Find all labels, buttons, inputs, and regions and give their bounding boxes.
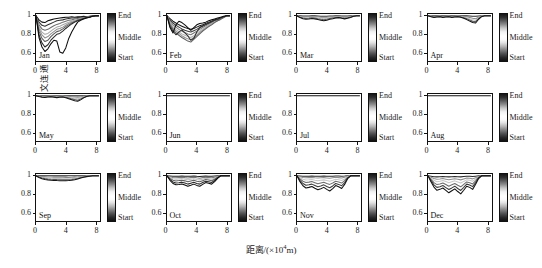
x-tick-mark (35, 222, 36, 225)
x-tick-mark (296, 62, 297, 65)
x-tick-mark (427, 142, 428, 145)
y-tick-mark (163, 133, 166, 134)
x-tick-label: 8 (217, 147, 237, 155)
x-tick-mark (488, 222, 489, 225)
colorbar-dec (499, 173, 508, 222)
x-tick-mark (296, 142, 297, 145)
y-tick-mark (163, 175, 166, 176)
colorbar-oct (238, 173, 247, 222)
x-tick-label: 4 (56, 147, 76, 155)
y-tick-mark (33, 95, 36, 96)
x-tick-mark (427, 222, 428, 225)
series-line (428, 16, 491, 23)
y-tick-mark (294, 194, 297, 195)
x-tick-mark (457, 222, 458, 225)
y-tick-label: 1 (7, 171, 31, 179)
y-tick-label: 0.6 (7, 209, 31, 217)
y-tick-label: 0.6 (138, 209, 162, 217)
colorbar-label-end: End (510, 92, 523, 100)
plot-area-jan: Jan (35, 13, 101, 62)
y-tick-label: 0.6 (268, 49, 292, 57)
y-tick-label: 0.6 (138, 49, 162, 57)
y-tick-mark (424, 194, 427, 195)
colorbar-label-end: End (379, 92, 392, 100)
y-tick-label: 0.8 (7, 190, 31, 198)
x-tick-label: 8 (478, 227, 498, 235)
y-tick-label: 0.8 (138, 30, 162, 38)
x-tick-label: 0 (417, 67, 437, 75)
x-tick-label: 8 (347, 67, 367, 75)
y-tick-mark (424, 133, 427, 134)
x-tick-label: 4 (447, 227, 467, 235)
plot-area-apr: Apr (427, 13, 493, 62)
y-tick-label: 0.8 (7, 30, 31, 38)
x-tick-mark (196, 222, 197, 225)
x-tick-label: 8 (347, 147, 367, 155)
month-label-sep: Sep (39, 212, 51, 220)
plot-area-jul: Jul (296, 93, 362, 142)
y-tick-label: 0.8 (7, 110, 31, 118)
x-tick-mark (96, 142, 97, 145)
y-tick-label: 0.8 (399, 30, 423, 38)
monthly-connectivity-figure: 横向水文连通 距离/(×104m) Jan10.80.6048EndMiddle… (0, 0, 542, 268)
y-tick-mark (33, 34, 36, 35)
y-tick-label: 1 (7, 91, 31, 99)
x-tick-label: 0 (25, 67, 45, 75)
y-tick-mark (424, 15, 427, 16)
x-tick-label: 4 (317, 147, 337, 155)
y-tick-label: 0.8 (268, 30, 292, 38)
colorbar-label-start: Start (379, 54, 394, 62)
month-label-aug: Aug (431, 132, 445, 140)
y-tick-mark (33, 194, 36, 195)
x-tick-mark (488, 142, 489, 145)
month-label-may: May (39, 132, 54, 140)
y-tick-label: 1 (399, 91, 423, 99)
y-tick-mark (163, 213, 166, 214)
y-tick-mark (33, 15, 36, 16)
colorbar-label-start: Start (379, 214, 394, 222)
colorbar-label-end: End (118, 12, 131, 20)
y-tick-label: 1 (138, 91, 162, 99)
x-tick-label: 8 (86, 67, 106, 75)
colorbar-label-start: Start (249, 214, 264, 222)
colorbar-label-end: End (118, 92, 131, 100)
x-tick-mark (296, 222, 297, 225)
x-tick-mark (66, 222, 67, 225)
y-tick-label: 1 (399, 171, 423, 179)
series-line (428, 176, 491, 191)
y-tick-label: 1 (268, 91, 292, 99)
y-tick-mark (294, 95, 297, 96)
x-tick-mark (227, 142, 228, 145)
y-tick-label: 1 (7, 11, 31, 19)
colorbar-label-start: Start (510, 134, 525, 142)
y-tick-mark (294, 213, 297, 214)
x-tick-mark (327, 222, 328, 225)
plot-area-oct: Oct (166, 173, 232, 222)
x-tick-label: 8 (478, 147, 498, 155)
plot-area-feb: Feb (166, 13, 232, 62)
y-tick-mark (424, 114, 427, 115)
x-tick-mark (96, 62, 97, 65)
x-tick-label: 8 (86, 147, 106, 155)
colorbar-label-start: Start (118, 214, 133, 222)
x-tick-label: 8 (347, 227, 367, 235)
y-tick-mark (33, 114, 36, 115)
colorbar-label-start: Start (118, 134, 133, 142)
colorbar-jan (107, 13, 116, 62)
y-tick-mark (163, 34, 166, 35)
y-tick-mark (163, 194, 166, 195)
y-tick-mark (294, 15, 297, 16)
colorbar-label-end: End (510, 12, 523, 20)
x-tick-mark (327, 142, 328, 145)
y-tick-mark (424, 95, 427, 96)
colorbar-label-end: End (249, 172, 262, 180)
x-tick-label: 8 (86, 227, 106, 235)
month-label-oct: Oct (170, 212, 182, 220)
colorbar-jun (238, 93, 247, 142)
x-tick-label: 4 (317, 67, 337, 75)
y-tick-label: 0.6 (399, 129, 423, 137)
x-tick-mark (357, 142, 358, 145)
y-tick-label: 0.8 (399, 110, 423, 118)
y-tick-label: 0.6 (7, 129, 31, 137)
colorbar-label-end: End (510, 172, 523, 180)
